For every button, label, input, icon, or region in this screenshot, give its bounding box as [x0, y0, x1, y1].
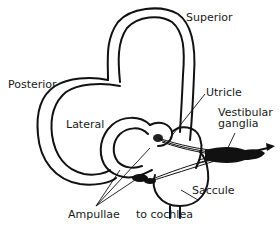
label-ampullae: Ampullae — [68, 208, 120, 221]
label-ganglia: ganglia — [218, 117, 259, 130]
label-utricle: Utricle — [206, 86, 242, 99]
vestibular-ganglia — [205, 147, 265, 163]
label-posterior: Posterior — [8, 78, 57, 91]
lateral-canal — [101, 118, 172, 177]
label-superior: Superior — [186, 11, 233, 24]
vestibular-apparatus-diagram: Superior Posterior Lateral Utricle Vesti… — [0, 0, 280, 229]
label-saccule: Saccule — [192, 184, 235, 197]
label-lateral: Lateral — [66, 118, 104, 131]
label-to-cochlea: to cochlea — [136, 208, 193, 221]
